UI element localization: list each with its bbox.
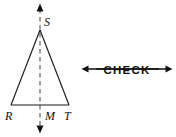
vertex-label-R: R <box>4 109 13 123</box>
geometry-figure: S R M T CHECK <box>0 0 176 137</box>
check-annotation-group: CHECK <box>82 64 173 76</box>
axis-arrowhead-up-icon <box>37 4 44 12</box>
triangle-side-ST <box>40 30 69 105</box>
vertex-label-T: T <box>64 109 72 123</box>
axis-of-symmetry-group <box>37 4 44 134</box>
check-arrowhead-right-icon <box>166 66 173 73</box>
check-arrowhead-left-icon <box>82 66 89 73</box>
axis-arrowhead-down-icon <box>37 126 44 134</box>
midpoint-label-M: M <box>44 109 56 123</box>
vertex-label-S: S <box>44 15 50 29</box>
figure-canvas: S R M T CHECK <box>0 0 176 137</box>
triangle-side-SR <box>11 30 40 105</box>
